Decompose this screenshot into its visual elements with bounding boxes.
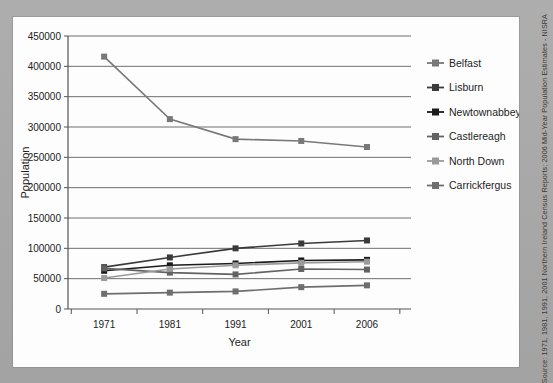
y-tick-label: 50000 [33, 273, 61, 284]
legend-label: Newtownabbey [449, 106, 519, 118]
legend-label: Belfast [449, 57, 481, 69]
data-point-marker [101, 291, 107, 297]
data-point-marker [364, 144, 370, 150]
x-tick-label: 1971 [93, 319, 116, 330]
x-axis-title: Year [228, 336, 251, 348]
figure-panel: 0500001000001500002000002500003000003500… [13, 17, 519, 367]
y-axis-title: Population [19, 147, 31, 199]
data-point-marker [101, 275, 107, 281]
chart-legend: BelfastLisburnNewtownabbeyCastlereaghNor… [427, 57, 519, 192]
data-point-marker [101, 54, 107, 60]
data-point-marker [233, 288, 239, 294]
legend-item-lisburn[interactable]: Lisburn [427, 81, 484, 93]
data-point-marker [364, 237, 370, 243]
data-point-marker [364, 282, 370, 288]
x-tick-label: 2001 [290, 319, 313, 330]
data-point-marker [364, 267, 370, 273]
y-tick-label: 200000 [28, 182, 62, 193]
data-point-marker [298, 260, 304, 266]
legend-item-newtownabbey[interactable]: Newtownabbey [427, 106, 519, 118]
y-tick-label: 150000 [28, 213, 62, 224]
series-line-belfast [104, 57, 367, 147]
x-tick-label: 2006 [356, 319, 379, 330]
axis-lines [68, 36, 411, 309]
data-point-marker [364, 259, 370, 265]
data-point-marker [233, 271, 239, 277]
data-point-marker [233, 262, 239, 268]
data-series-group [101, 54, 370, 297]
data-point-marker [298, 240, 304, 246]
y-tick-label: 400000 [28, 61, 62, 72]
y-tick-label: 300000 [28, 122, 62, 133]
legend-item-belfast[interactable]: Belfast [427, 57, 481, 69]
data-point-marker [167, 254, 173, 260]
legend-label: Lisburn [449, 81, 484, 93]
source-note-text: Source: 1971, 1981, 1991, 2001 Northern … [540, 8, 549, 383]
legend-label: Castlereagh [449, 130, 506, 142]
data-point-marker [298, 138, 304, 144]
legend-item-carrickfergus[interactable]: Carrickfergus [427, 179, 511, 191]
legend-item-north-down[interactable]: North Down [427, 155, 505, 167]
y-tick-label: 250000 [28, 152, 62, 163]
legend-label: North Down [449, 155, 505, 167]
data-point-marker [298, 284, 304, 290]
data-point-marker [167, 266, 173, 272]
legend-label: Carrickfergus [449, 179, 511, 191]
y-tick-label: 100000 [28, 243, 62, 254]
legend-item-castlereagh[interactable]: Castlereagh [427, 130, 506, 142]
source-note: Source: 1971, 1981, 1991, 2001 Northern … [537, 0, 551, 383]
data-point-marker [167, 290, 173, 296]
y-axis-tick-labels: 0500001000001500002000002500003000003500… [28, 31, 62, 315]
y-tick-label: 350000 [28, 91, 62, 102]
population-line-chart: 0500001000001500002000002500003000003500… [13, 17, 519, 367]
y-tick-label: 450000 [28, 31, 62, 42]
data-point-marker [101, 265, 107, 271]
data-point-marker [298, 266, 304, 272]
x-axis-tick-labels: 19711981199120012006 [71, 309, 400, 330]
page-background: 0500001000001500002000002500003000003500… [0, 0, 553, 383]
data-point-marker [167, 116, 173, 122]
y-tick-label: 0 [55, 304, 61, 315]
x-tick-label: 1991 [224, 319, 247, 330]
x-tick-label: 1981 [159, 319, 182, 330]
data-point-marker [233, 136, 239, 142]
data-point-marker [233, 245, 239, 251]
